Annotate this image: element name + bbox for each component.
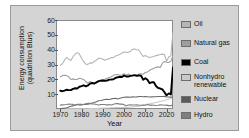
legend-item-natural-gas[interactable]: Natural gas [181, 39, 230, 47]
legend-label: Hydro [194, 111, 213, 119]
y-tick-label: 30 [35, 61, 55, 68]
legend-item-nonhydro-renewable[interactable]: Nonhydro renewable [181, 73, 226, 89]
chart-screenshot: 102030405060 197019801990200020102020 En… [0, 0, 249, 138]
y-tick-mark [55, 94, 58, 95]
legend-item-oil[interactable]: Oil [181, 20, 203, 28]
y-tick-mark [55, 20, 58, 21]
legend-label: Oil [194, 20, 203, 28]
legend: OilNatural gasCoalNonhydro renewableNucl… [181, 16, 239, 120]
legend-swatch-icon [181, 21, 191, 28]
series-line-hydro [60, 103, 173, 106]
y-axis-label-line2: (quadrillion Btus) [26, 12, 34, 104]
plot-area [56, 20, 173, 109]
y-axis-ticks: 102030405060 [31, 6, 55, 123]
x-tick-label: 2020 [155, 111, 179, 119]
y-tick-mark [55, 79, 58, 80]
y-tick-label: 10 [35, 91, 55, 98]
y-tick-label: 50 [35, 31, 55, 38]
y-tick-label: 40 [35, 46, 55, 53]
x-tick-mark [145, 109, 146, 112]
x-axis-label: Year [56, 119, 173, 128]
legend-label: Natural gas [194, 39, 230, 47]
legend-item-hydro[interactable]: Hydro [181, 111, 213, 119]
series-line-coal [60, 67, 173, 95]
y-tick-mark [55, 50, 58, 51]
y-tick-label: 20 [35, 76, 55, 83]
y-axis-label: Energy consumption (quadrillion Btus) [18, 12, 34, 104]
legend-label: Coal [194, 58, 208, 66]
legend-item-nuclear[interactable]: Nuclear [181, 95, 218, 103]
legend-label: Nuclear [194, 95, 218, 103]
legend-item-coal[interactable]: Coal [181, 58, 208, 66]
legend-swatch-icon [181, 74, 191, 81]
series-lines [56, 20, 173, 109]
figure-panel: 102030405060 197019801990200020102020 En… [10, 5, 239, 131]
legend-swatch-icon [181, 59, 191, 66]
x-tick-mark [167, 109, 168, 112]
series-line-natural-gas [60, 56, 173, 85]
x-tick-mark [124, 109, 125, 112]
legend-swatch-icon [181, 96, 191, 103]
x-tick-mark [60, 109, 61, 112]
legend-label: Nonhydro renewable [194, 73, 226, 89]
legend-swatch-icon [181, 40, 191, 47]
y-tick-label: 60 [35, 17, 55, 24]
y-axis-label-line1: Energy consumption [18, 26, 25, 90]
y-tick-mark [55, 35, 58, 36]
x-tick-mark [103, 109, 104, 112]
y-tick-mark [55, 65, 58, 66]
legend-swatch-icon [181, 112, 191, 119]
x-tick-mark [82, 109, 83, 112]
series-line-oil [60, 32, 173, 65]
